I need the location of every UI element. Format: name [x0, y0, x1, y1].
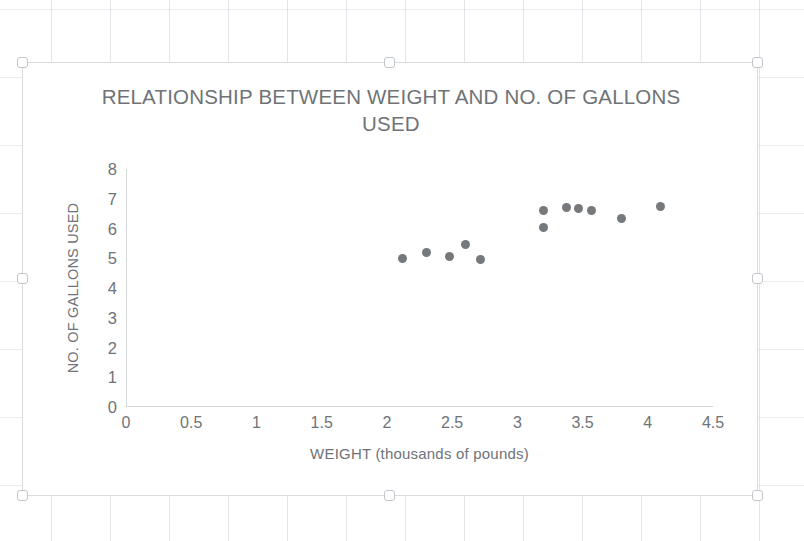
y-axis-tick-label: 1: [108, 368, 117, 387]
resize-handle-middle-right[interactable]: [752, 273, 763, 284]
x-axis-tick-label: 0: [122, 414, 131, 432]
plot-area: 012345678 00.511.522.533.544.5: [126, 169, 713, 407]
x-axis-tick-label: 3.5: [571, 414, 593, 432]
resize-handle-bottom-right[interactable]: [752, 490, 763, 501]
y-axis-tick-label: 5: [108, 249, 117, 268]
chart-title: RELATIONSHIP BETWEEN WEIGHT AND NO. OF G…: [83, 83, 699, 137]
scatter-point: [422, 248, 431, 257]
scatter-point: [574, 204, 583, 213]
scatter-point: [617, 214, 626, 223]
y-axis-title: NO. OF GALLONS USED: [64, 169, 82, 407]
y-axis-tick-label: 7: [108, 189, 117, 208]
x-axis-line: [126, 406, 713, 407]
y-axis-title-label: NO. OF GALLONS USED: [65, 203, 81, 374]
scatter-point: [656, 202, 665, 211]
x-axis-tick-label: 4.5: [702, 414, 724, 432]
scatter-point: [562, 203, 571, 212]
resize-handle-bottom-middle[interactable]: [384, 490, 395, 501]
x-axis-tick-label: 4: [643, 414, 652, 432]
x-axis-tick-label: 2: [382, 414, 391, 432]
x-axis-tick-label: 1: [252, 414, 261, 432]
y-axis-line: [126, 169, 127, 407]
resize-handle-top-right[interactable]: [752, 57, 763, 68]
scatter-point: [445, 252, 454, 261]
y-axis-tick-label: 0: [108, 398, 117, 417]
resize-handle-top-left[interactable]: [17, 57, 28, 68]
y-axis-tick-label: 8: [108, 160, 117, 179]
x-axis-tick-label: 0.5: [180, 414, 202, 432]
scatter-point: [398, 254, 407, 263]
scatter-point: [476, 255, 485, 264]
x-axis-tick-label: 2.5: [441, 414, 463, 432]
scatter-point: [461, 240, 470, 249]
x-axis-title: WEIGHT (thousands of pounds): [126, 445, 713, 462]
resize-handle-top-middle[interactable]: [384, 57, 395, 68]
x-axis-tick-label: 3: [513, 414, 522, 432]
y-axis-tick-label: 4: [108, 279, 117, 298]
chart-object[interactable]: RELATIONSHIP BETWEEN WEIGHT AND NO. OF G…: [22, 62, 758, 496]
scatter-point: [587, 206, 596, 215]
y-axis-tick-label: 6: [108, 219, 117, 238]
y-axis-tick-label: 2: [108, 338, 117, 357]
scatter-point: [539, 206, 548, 215]
y-axis-tick-label: 3: [108, 308, 117, 327]
x-axis-tick-label: 1.5: [311, 414, 333, 432]
resize-handle-middle-left[interactable]: [17, 273, 28, 284]
resize-handle-bottom-left[interactable]: [17, 490, 28, 501]
scatter-point: [539, 223, 548, 232]
